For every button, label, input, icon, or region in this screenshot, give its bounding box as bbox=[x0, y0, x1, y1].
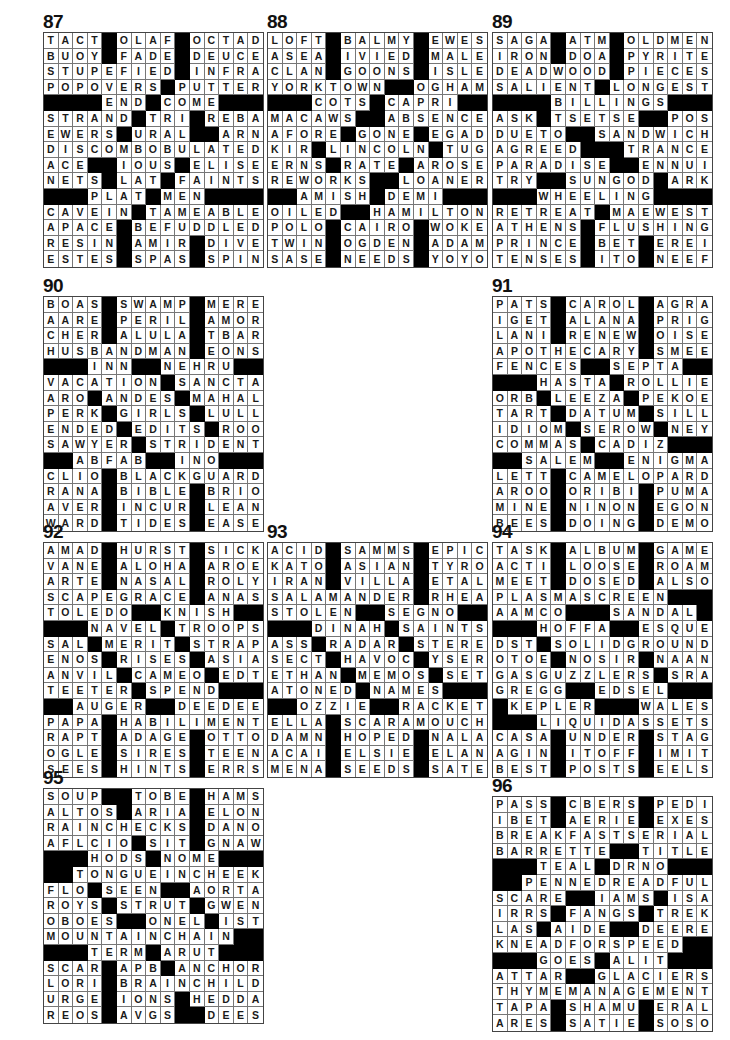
letter-cell: F bbox=[566, 621, 581, 637]
letter-cell: H bbox=[205, 867, 220, 883]
letter-cell: U bbox=[161, 500, 176, 516]
letter-cell: M bbox=[44, 929, 59, 945]
letter-cell: I bbox=[414, 205, 429, 221]
black-square bbox=[102, 1007, 117, 1023]
letter-cell: N bbox=[429, 730, 444, 746]
letter-cell: A bbox=[443, 730, 458, 746]
black-square bbox=[161, 621, 176, 637]
letter-cell: L bbox=[429, 205, 444, 221]
letter-cell: E bbox=[654, 922, 669, 938]
letter-cell: E bbox=[234, 1007, 249, 1023]
black-square bbox=[697, 605, 712, 621]
letter-cell: S bbox=[161, 1007, 176, 1023]
letter-cell: S bbox=[146, 574, 161, 590]
letter-cell: P bbox=[668, 111, 683, 127]
letter-cell: S bbox=[88, 1007, 103, 1023]
black-square bbox=[102, 297, 117, 313]
letter-cell: U bbox=[610, 543, 625, 559]
letter-cell: R bbox=[190, 621, 205, 637]
letter-cell: P bbox=[73, 80, 88, 96]
letter-cell: E bbox=[59, 236, 74, 252]
letter-cell: A bbox=[44, 220, 59, 236]
letter-cell: S bbox=[624, 683, 639, 699]
puzzle-number: 96 bbox=[492, 776, 512, 795]
letter-cell: E bbox=[175, 789, 190, 805]
black-square bbox=[654, 173, 669, 189]
letter-cell: U bbox=[88, 699, 103, 715]
letter-cell: E bbox=[219, 668, 234, 684]
letter-cell: A bbox=[283, 730, 298, 746]
black-square bbox=[73, 851, 88, 867]
letter-cell: S bbox=[595, 574, 610, 590]
letter-cell: M bbox=[190, 851, 205, 867]
letter-cell: E bbox=[59, 173, 74, 189]
letter-cell: P bbox=[639, 359, 654, 375]
black-square bbox=[472, 683, 487, 699]
letter-cell: T bbox=[283, 683, 298, 699]
black-square bbox=[88, 637, 103, 653]
letter-cell: O bbox=[234, 313, 249, 329]
letter-cell: I bbox=[161, 236, 176, 252]
letter-cell: M bbox=[522, 437, 537, 453]
letter-cell: N bbox=[472, 205, 487, 221]
letter-cell: B bbox=[341, 33, 356, 49]
letter-cell: O bbox=[508, 437, 523, 453]
letter-cell: M bbox=[537, 984, 552, 1000]
letter-cell: B bbox=[399, 111, 414, 127]
letter-cell: W bbox=[283, 236, 298, 252]
black-square bbox=[581, 359, 596, 375]
black-square bbox=[697, 437, 712, 453]
letter-cell: U bbox=[73, 789, 88, 805]
letter-cell: D bbox=[697, 637, 712, 653]
letter-cell: E bbox=[458, 699, 473, 715]
letter-cell: R bbox=[312, 127, 327, 143]
letter-cell: M bbox=[399, 205, 414, 221]
letter-cell: T bbox=[132, 789, 147, 805]
letter-cell: O bbox=[205, 621, 220, 637]
black-square bbox=[697, 683, 712, 699]
letter-cell: A bbox=[581, 297, 596, 313]
letter-cell: C bbox=[356, 715, 371, 731]
black-square bbox=[624, 922, 639, 938]
letter-cell: M bbox=[356, 668, 371, 684]
letter-cell: A bbox=[248, 992, 263, 1008]
letter-cell: A bbox=[668, 543, 683, 559]
letter-cell: O bbox=[697, 574, 712, 590]
letter-cell: L bbox=[234, 205, 249, 221]
letter-cell: A bbox=[508, 33, 523, 49]
black-square bbox=[385, 80, 400, 96]
letter-cell: A bbox=[117, 559, 132, 575]
letter-cell: E bbox=[44, 251, 59, 267]
letter-cell: I bbox=[610, 95, 625, 111]
letter-cell: D bbox=[472, 127, 487, 143]
letter-cell: L bbox=[73, 746, 88, 762]
letter-cell: U bbox=[146, 158, 161, 174]
letter-cell: U bbox=[668, 637, 683, 653]
black-square bbox=[117, 668, 132, 684]
letter-cell: A bbox=[414, 621, 429, 637]
letter-cell: O bbox=[248, 422, 263, 438]
letter-cell: L bbox=[59, 805, 74, 821]
black-square bbox=[414, 559, 429, 575]
letter-cell: O bbox=[624, 33, 639, 49]
letter-cell: I bbox=[668, 828, 683, 844]
letter-cell: E bbox=[385, 590, 400, 606]
letter-cell: O bbox=[697, 1015, 712, 1031]
letter-cell: O bbox=[248, 730, 263, 746]
black-square bbox=[190, 761, 205, 777]
letter-cell: S bbox=[190, 422, 205, 438]
black-square bbox=[248, 359, 263, 375]
letter-cell: O bbox=[219, 574, 234, 590]
black-square bbox=[370, 605, 385, 621]
letter-cell: G bbox=[190, 469, 205, 485]
black-square bbox=[639, 730, 654, 746]
letter-cell: R bbox=[624, 859, 639, 875]
letter-cell: E bbox=[326, 127, 341, 143]
letter-cell: S bbox=[443, 64, 458, 80]
letter-cell: L bbox=[458, 730, 473, 746]
letter-cell: A bbox=[117, 961, 132, 977]
letter-cell: E bbox=[59, 683, 74, 699]
letter-cell: I bbox=[493, 313, 508, 329]
black-square bbox=[581, 683, 596, 699]
letter-cell: E bbox=[234, 142, 249, 158]
